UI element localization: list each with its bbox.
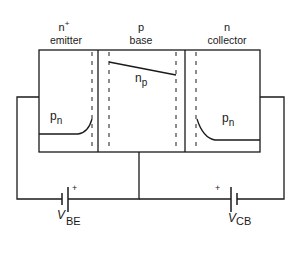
base-carrier-label: np [135, 71, 148, 88]
vcb-label: VCB [228, 211, 251, 227]
collector-label: collector [207, 34, 247, 46]
vcb-battery-icon [231, 187, 237, 212]
base-minority-profile [109, 62, 176, 75]
vcb-polarity: + [215, 183, 220, 193]
emitter-type-label: n+ [59, 19, 70, 33]
emitter-carrier-label: pn [50, 109, 62, 126]
device-outline [39, 50, 260, 152]
base-wire [68, 152, 139, 199]
transistor-diagram: n+ emitter p base n collector pn np pn +… [0, 0, 301, 263]
collector-type-label: n [224, 21, 230, 33]
emitter-minority-profile [39, 119, 92, 134]
vbe-polarity: + [72, 183, 77, 193]
emitter-label: emitter [50, 34, 83, 46]
collector-carrier-label: pn [222, 111, 234, 128]
base-label: base [130, 34, 153, 46]
vbe-label: VBE [57, 208, 81, 227]
base-type-label: p [138, 21, 144, 33]
